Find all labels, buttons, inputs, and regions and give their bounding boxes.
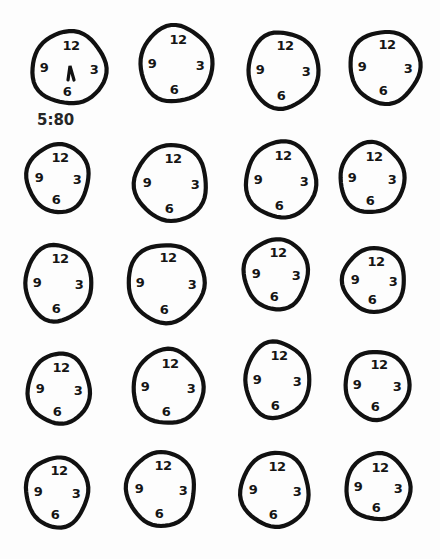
clock-face-12: 12 3 6 9 <box>339 244 409 316</box>
numeral-9: 9 <box>348 171 357 184</box>
numeral-9: 9 <box>353 378 362 391</box>
numeral-12: 12 <box>274 149 291 162</box>
numeral-3: 3 <box>90 63 99 76</box>
numeral-9: 9 <box>35 171 44 184</box>
clock-face-14: 12 3 6 9 <box>129 346 207 428</box>
numeral-12: 12 <box>370 358 387 371</box>
numeral-9: 9 <box>252 267 261 280</box>
numeral-9: 9 <box>354 480 363 493</box>
numeral-12: 12 <box>51 252 68 265</box>
numeral-6: 6 <box>277 89 286 102</box>
numeral-6: 6 <box>160 303 169 316</box>
clock-face-18: 12 3 6 9 <box>123 448 199 530</box>
numeral-6: 6 <box>269 508 278 521</box>
clock-face-20: 12 3 6 9 <box>342 450 414 524</box>
numeral-9: 9 <box>36 382 45 395</box>
numeral-12: 12 <box>51 151 68 164</box>
numeral-9: 9 <box>141 380 150 393</box>
numeral-9: 9 <box>351 273 360 286</box>
numeral-6: 6 <box>368 293 377 306</box>
numeral-9: 9 <box>358 60 367 73</box>
numeral-6: 6 <box>155 507 164 520</box>
clock-face-7: 12 3 6 9 <box>242 138 320 222</box>
numeral-3: 3 <box>73 173 82 186</box>
numeral-3: 3 <box>74 384 83 397</box>
clock-face-13: 12 3 6 9 <box>24 350 94 428</box>
numeral-3: 3 <box>300 175 309 188</box>
numeral-9: 9 <box>135 482 144 495</box>
numeral-3: 3 <box>389 275 398 288</box>
numeral-9: 9 <box>136 276 145 289</box>
clock-face-5: 12 3 6 9 <box>23 140 93 216</box>
numeral-12: 12 <box>161 357 178 370</box>
numeral-3: 3 <box>293 375 302 388</box>
numeral-6: 6 <box>275 199 284 212</box>
numeral-6: 6 <box>371 400 380 413</box>
numeral-12: 12 <box>50 464 67 477</box>
clock-face-6: 12 3 6 9 <box>131 141 211 225</box>
numeral-12: 12 <box>164 152 181 165</box>
numeral-9: 9 <box>249 483 258 496</box>
clock-face-2: 12 3 6 9 <box>136 22 216 106</box>
clock-face-11: 12 3 6 9 <box>240 235 312 313</box>
clock-hands-icon <box>68 66 74 80</box>
numeral-6: 6 <box>52 193 61 206</box>
numeral-12: 12 <box>365 150 382 163</box>
numeral-3: 3 <box>179 484 188 497</box>
numeral-6: 6 <box>366 194 375 207</box>
numeral-6: 6 <box>52 302 61 315</box>
numeral-12: 12 <box>270 349 287 362</box>
numeral-3: 3 <box>75 278 84 291</box>
clock-face-9: 12 3 6 9 <box>21 241 95 325</box>
numeral-9: 9 <box>40 61 49 74</box>
numeral-12: 12 <box>269 246 286 259</box>
numeral-9: 9 <box>148 57 157 70</box>
numeral-6: 6 <box>271 399 280 412</box>
clock-face-17: 12 3 6 9 <box>22 453 92 531</box>
numeral-12: 12 <box>154 459 171 472</box>
numeral-12: 12 <box>378 38 395 51</box>
numeral-9: 9 <box>34 485 43 498</box>
clock-face-10: 12 3 6 9 <box>124 240 208 326</box>
numeral-6: 6 <box>170 83 179 96</box>
clock-face-4: 12 3 6 9 <box>346 27 424 107</box>
numeral-9: 9 <box>253 373 262 386</box>
numeral-3: 3 <box>196 59 205 72</box>
numeral-3: 3 <box>188 278 197 291</box>
numeral-9: 9 <box>254 173 263 186</box>
numeral-6: 6 <box>51 508 60 521</box>
numeral-6: 6 <box>162 405 171 418</box>
numeral-3: 3 <box>302 65 311 78</box>
numeral-12: 12 <box>276 39 293 52</box>
worksheet: 12 3 6 9 12 3 6 9 12 3 6 9 12 3 6 9 12 3… <box>0 0 440 559</box>
numeral-12: 12 <box>367 255 384 268</box>
numeral-6: 6 <box>379 84 388 97</box>
numeral-6: 6 <box>270 290 279 303</box>
numeral-12: 12 <box>169 33 186 46</box>
numeral-9: 9 <box>256 63 265 76</box>
first-clock-time-label: 5:80 <box>37 111 74 129</box>
clock-face-15: 12 3 6 9 <box>241 338 313 422</box>
numeral-6: 6 <box>53 405 62 418</box>
clock-face-19: 12 3 6 9 <box>237 449 313 531</box>
numeral-3: 3 <box>394 482 403 495</box>
clock-face-8: 12 3 6 9 <box>336 139 408 217</box>
numeral-6: 6 <box>63 85 72 98</box>
clock-face-1: 12 3 6 9 <box>28 28 110 108</box>
numeral-3: 3 <box>404 62 413 75</box>
numeral-12: 12 <box>62 39 79 52</box>
clock-face-3: 12 3 6 9 <box>244 28 322 112</box>
numeral-3: 3 <box>388 173 397 186</box>
clock-face-16: 12 3 6 9 <box>341 347 413 423</box>
numeral-3: 3 <box>393 380 402 393</box>
numeral-3: 3 <box>292 269 301 282</box>
numeral-6: 6 <box>372 501 381 514</box>
numeral-12: 12 <box>268 460 285 473</box>
numeral-9: 9 <box>33 276 42 289</box>
numeral-3: 3 <box>191 178 200 191</box>
numeral-12: 12 <box>371 461 388 474</box>
numeral-12: 12 <box>159 251 176 264</box>
numeral-12: 12 <box>52 361 69 374</box>
numeral-9: 9 <box>143 176 152 189</box>
numeral-3: 3 <box>72 487 81 500</box>
